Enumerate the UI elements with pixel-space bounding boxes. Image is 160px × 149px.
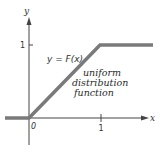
function-label: y = F(x) bbox=[46, 54, 83, 64]
x-axis-label: x bbox=[150, 113, 155, 123]
description-line-3: function bbox=[73, 87, 114, 98]
description-annotation: uniform distribution function bbox=[72, 67, 128, 98]
uniform-cdf-diagram: y 1 x 1 0 y = F(x) uniform distribution … bbox=[0, 0, 160, 149]
x-axis-arrow-icon bbox=[141, 116, 149, 121]
y-tick-1-label: 1 bbox=[20, 41, 25, 50]
origin-label: 0 bbox=[31, 122, 36, 131]
y-axis-label: y bbox=[23, 6, 30, 16]
x-axis: x 1 0 bbox=[5, 113, 155, 133]
y-axis-arrow-icon bbox=[27, 17, 32, 25]
x-tick-1-label: 1 bbox=[99, 124, 104, 133]
